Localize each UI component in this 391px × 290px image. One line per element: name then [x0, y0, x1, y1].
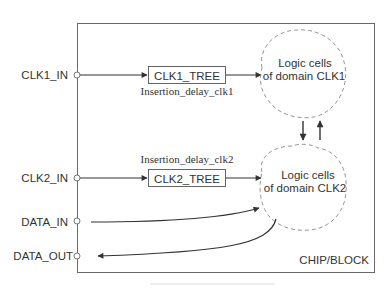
clk2-insertion-delay-label: Insertion_delay_clk2	[141, 153, 234, 165]
port-data-in	[74, 218, 80, 224]
logic-cloud-clk1-line1: Logic cells	[278, 57, 332, 69]
faint-caption	[150, 283, 275, 285]
clk1-insertion-delay-label: Insertion_delay_clk1	[141, 85, 234, 97]
wire-data-in-to-clk2-domain	[91, 208, 259, 222]
clk1-tree-label: CLK1_TREE	[154, 70, 220, 82]
logic-cloud-clk2-line2: of domain CLK2	[264, 182, 346, 194]
chip-block-label: CHIP/BLOCK	[299, 254, 369, 266]
clock-domain-diagram: CHIP/BLOCK CLK1_IN CLK1_TREE Insertion_d…	[0, 0, 391, 290]
port-label-data-in: DATA_IN	[21, 216, 68, 228]
clk2-tree-label: CLK2_TREE	[154, 173, 220, 185]
port-label-clk2-in: CLK2_IN	[21, 172, 68, 184]
logic-cloud-clk2-line1: Logic cells	[281, 169, 335, 181]
port-clk2-in	[74, 175, 80, 181]
port-data-out	[74, 253, 80, 259]
port-label-clk1-in: CLK1_IN	[21, 69, 68, 81]
port-label-data-out: DATA_OUT	[13, 250, 73, 262]
logic-cloud-clk1-line2: of domain CLK1	[263, 70, 345, 82]
port-clk1-in	[74, 72, 80, 78]
wire-clk2-domain-to-data-out	[98, 219, 276, 256]
